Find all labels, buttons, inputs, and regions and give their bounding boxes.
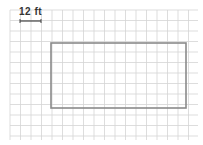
scale-label: 12 ft: [19, 6, 42, 17]
grid-lines: [10, 10, 198, 140]
grid-diagram: [0, 0, 203, 145]
rectangle-shape: [51, 43, 186, 108]
